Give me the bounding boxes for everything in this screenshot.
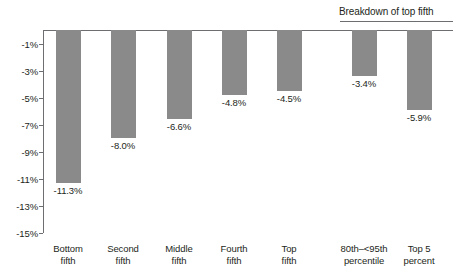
y-tick-mark — [39, 179, 43, 180]
y-tick-label: -13% — [16, 201, 38, 212]
bar-value-label: -3.4% — [334, 78, 394, 89]
y-tick-mark — [39, 233, 43, 234]
y-tick-mark — [39, 71, 43, 72]
y-tick-label: -7% — [21, 120, 38, 131]
plot-area: Breakdown of top fifth -1% -3% -5% -7% -… — [0, 0, 453, 280]
y-tick-label: -9% — [21, 147, 38, 158]
y-tick-label: -3% — [21, 66, 38, 77]
x-category-label-line: Top — [248, 243, 330, 255]
bar-value-label: -4.5% — [259, 93, 319, 104]
bar-value-label: -5.9% — [389, 112, 449, 123]
breakdown-annotation-label: Breakdown of top fifth — [339, 6, 434, 17]
bar — [222, 30, 247, 95]
breakdown-annotation-rule — [340, 21, 453, 22]
x-category-label: Top fifth — [248, 243, 330, 266]
bar-value-label: -8.0% — [93, 140, 153, 151]
y-tick-label: -15% — [16, 228, 38, 239]
bar — [56, 30, 81, 183]
x-category-label: Top 5 percent — [378, 243, 453, 266]
zero-baseline — [43, 30, 453, 31]
bar — [352, 30, 377, 76]
bar-value-label: -11.3% — [38, 185, 98, 196]
bar — [167, 30, 192, 119]
bar — [277, 30, 302, 91]
bar-value-label: -4.8% — [204, 97, 264, 108]
y-tick-label: -5% — [21, 93, 38, 104]
x-category-label-line: Top 5 — [378, 243, 453, 255]
y-tick-mark — [39, 206, 43, 207]
bar — [111, 30, 136, 138]
x-category-label-line: fifth — [248, 255, 330, 267]
bar — [407, 30, 432, 110]
y-tick-label: -11% — [17, 174, 38, 185]
y-axis-line — [43, 30, 44, 233]
y-tick-mark — [39, 125, 43, 126]
y-tick-mark — [39, 152, 43, 153]
y-tick-mark — [39, 98, 43, 99]
bar-value-label: -6.6% — [149, 121, 209, 132]
bar-chart: Breakdown of top fifth -1% -3% -5% -7% -… — [0, 0, 453, 280]
x-category-label-line: percent — [378, 255, 453, 267]
y-tick-mark — [39, 44, 43, 45]
y-tick-label: -1% — [21, 39, 38, 50]
